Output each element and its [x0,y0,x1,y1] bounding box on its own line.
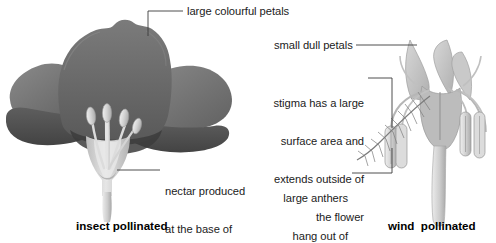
label-small-dull-petals: small dull petals [274,39,364,52]
caption-insect-pollinated: insect pollinated [76,219,167,232]
leader-stigma [368,78,392,128]
caption-wind-pollinated: wind pollinated [388,219,476,232]
label-stigma-line-1: stigma has a large [244,97,364,110]
label-stigma-line-2: surface area and [244,135,364,148]
label-large-anthers: large anthers hang out of flower to catc… [228,167,348,243]
label-anthers-line-2: hang out of [228,230,348,243]
label-anthers-line-1: large anthers [228,192,348,205]
figure-canvas: large colourful petals nectar produced a… [0,0,496,243]
label-large-colourful-petals: large colourful petals [187,5,327,18]
wind-pollinated-flower [357,40,486,226]
